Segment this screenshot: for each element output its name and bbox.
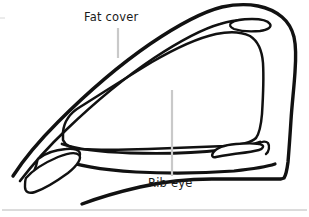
lower-left-bone-lower <box>25 153 80 193</box>
top-bone-shape <box>230 19 271 31</box>
label-rib-eye: Rib eye <box>148 178 193 190</box>
lower-rib-plate-lower-edge <box>58 158 275 173</box>
label-fat-cover: Fat cover <box>84 12 139 24</box>
figure-container: Fat cover Rib eye <box>0 0 309 217</box>
